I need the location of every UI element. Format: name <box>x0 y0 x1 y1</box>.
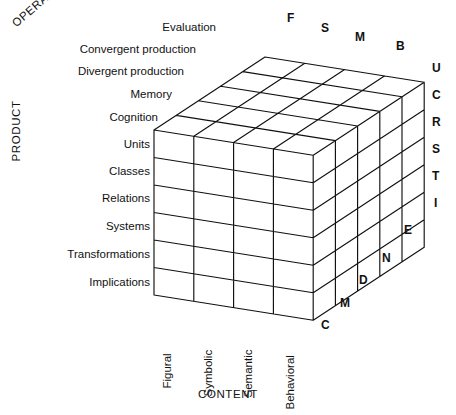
operation-code-convergent-production: N <box>382 252 391 264</box>
diagram-canvas: OPERATION PRODUCT CONTENT Evaluation Con… <box>0 0 456 415</box>
content-code-symbolic: S <box>321 22 329 34</box>
product-label-transformations: Transformations <box>0 249 150 261</box>
content-label-behavioral: Behavioral <box>285 355 297 409</box>
content-code-figural: F <box>287 12 294 24</box>
operation-label-convergent-production: Convergent production <box>20 44 196 56</box>
operation-code-memory: M <box>340 297 350 309</box>
content-code-semantic: M <box>355 31 365 43</box>
product-label-classes: Classes <box>0 166 150 178</box>
product-code-implications: I <box>434 197 437 209</box>
axis-title-product: PRODUCT <box>11 100 23 161</box>
cube-wireframe <box>154 57 424 320</box>
product-code-relations: R <box>432 116 441 128</box>
content-code-behavioral: B <box>396 40 405 52</box>
content-label-figural: Figural <box>162 353 174 388</box>
operation-code-divergent-production: D <box>359 274 368 286</box>
content-label-semantic: Semantic <box>243 350 255 398</box>
operation-label-divergent-production: Divergent production <box>8 66 184 78</box>
operation-label-cognition: Cognition <box>0 112 158 124</box>
product-code-units: U <box>432 62 441 74</box>
operation-code-evaluation: E <box>404 224 412 236</box>
product-code-transformations: T <box>432 170 439 182</box>
product-label-units: Units <box>0 139 150 151</box>
operation-label-evaluation: Evaluation <box>40 22 216 34</box>
product-code-classes: C <box>432 89 441 101</box>
soi-cube-graphic <box>0 0 456 415</box>
product-label-systems: Systems <box>0 221 150 233</box>
operation-code-cognition: C <box>321 319 330 331</box>
content-label-symbolic: Symbolic <box>203 350 215 397</box>
product-code-systems: S <box>432 143 440 155</box>
product-label-implications: Implications <box>0 277 150 289</box>
operation-label-memory: Memory <box>0 89 172 101</box>
product-label-relations: Relations <box>0 193 150 205</box>
